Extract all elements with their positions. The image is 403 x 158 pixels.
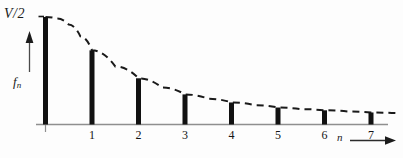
x-tick-label-1: 1 — [89, 128, 95, 143]
x-axis-label: n — [337, 132, 343, 143]
y-axis-label-subscript: n — [17, 80, 22, 90]
x-tick-label-5: 5 — [275, 128, 281, 143]
bar-n0 — [43, 17, 48, 125]
x-tick-label-4: 4 — [229, 128, 235, 143]
dashed-envelope-curve — [46, 17, 399, 113]
y-axis-label: fn — [13, 75, 21, 90]
bar-n2 — [136, 78, 141, 124]
figure-container: V/2 fn n 1 2 3 4 5 6 7 — [0, 0, 403, 158]
x-tick-label-3: 3 — [182, 128, 188, 143]
bar-n3 — [183, 94, 188, 124]
bar-n7 — [369, 112, 374, 124]
x-tick-label-2: 2 — [136, 128, 142, 143]
y-axis-arrow-head — [26, 31, 34, 43]
bar-n1 — [90, 50, 95, 124]
bar-n4 — [229, 102, 234, 124]
bar-n5 — [276, 108, 281, 125]
bar-n6 — [322, 110, 327, 124]
y-axis-top-tick-label: V/2 — [4, 7, 25, 21]
x-axis-arrow-head — [385, 136, 396, 144]
x-tick-label-7: 7 — [368, 128, 374, 143]
x-tick-label-6: 6 — [322, 128, 328, 143]
